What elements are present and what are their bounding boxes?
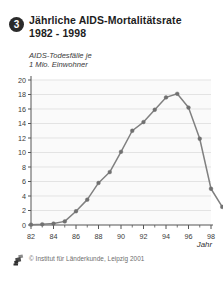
x-axis-title: Jahr: [197, 240, 212, 249]
page-title: Jährliche AIDS-Mortalitätsrate 1982 - 19…: [29, 14, 219, 39]
figure-number-badge: 3: [9, 17, 24, 32]
y-axis: [28, 76, 31, 225]
svg-text:18: 18: [18, 90, 26, 99]
chart-header: 3 Jährliche AIDS-Mortalitätsrate 1982 - …: [0, 0, 223, 58]
svg-text:94: 94: [162, 232, 170, 241]
x-tick-labels: 828486889092949698: [27, 232, 215, 241]
line-chart-svg: 02468101214161820 828486889092949698: [0, 70, 223, 250]
svg-text:92: 92: [140, 232, 148, 241]
svg-text:14: 14: [18, 119, 26, 128]
institut-logo-icon: [12, 254, 25, 266]
svg-text:0: 0: [22, 221, 26, 230]
svg-text:82: 82: [27, 232, 35, 241]
svg-text:90: 90: [117, 232, 125, 241]
copyright-credit: © Institut für Länderkunde, Leipzig 2001: [29, 255, 144, 262]
svg-text:20: 20: [18, 76, 26, 85]
plot-area: 02468101214161820 828486889092949698: [0, 70, 223, 250]
subtitle-line-1: AIDS-Todesfälle je: [29, 51, 209, 60]
svg-text:2: 2: [22, 206, 26, 215]
svg-text:96: 96: [185, 232, 193, 241]
subtitle-line-2: 1 Mio. Einwohner: [29, 60, 209, 69]
x-axis: [31, 225, 213, 229]
svg-text:88: 88: [95, 232, 103, 241]
svg-text:4: 4: [22, 192, 26, 201]
title-line-1: Jährliche AIDS-Mortalitätsrate: [29, 14, 219, 27]
chart-subtitle: AIDS-Todesfälle je 1 Mio. Einwohner: [29, 51, 209, 70]
svg-text:10: 10: [18, 148, 26, 157]
title-line-2: 1982 - 1998: [29, 27, 219, 40]
svg-text:12: 12: [18, 134, 26, 143]
y-tick-labels: 02468101214161820: [18, 76, 26, 230]
aids-mortality-chart-figure: 3 Jährliche AIDS-Mortalitätsrate 1982 - …: [0, 0, 223, 286]
svg-text:6: 6: [22, 177, 26, 186]
svg-text:86: 86: [72, 232, 80, 241]
svg-text:8: 8: [22, 163, 26, 172]
chart-footer: © Institut für Länderkunde, Leipzig 2001: [0, 252, 223, 286]
svg-text:16: 16: [18, 105, 26, 114]
svg-text:84: 84: [50, 232, 58, 241]
